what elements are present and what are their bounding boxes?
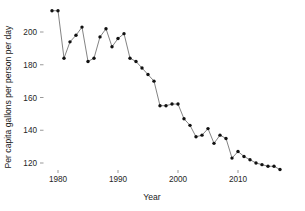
data-point <box>98 35 101 38</box>
data-point <box>170 102 173 105</box>
data-point <box>134 60 137 63</box>
data-point <box>158 104 161 107</box>
data-point <box>206 127 209 130</box>
data-point <box>146 73 149 76</box>
data-point <box>74 34 77 37</box>
series-line-per-capita-water-use <box>52 11 280 170</box>
data-point <box>128 57 131 60</box>
y-tick-label: 160 <box>23 94 37 103</box>
series-markers <box>50 9 281 171</box>
line-chart: 120140160180200 1980199020002010 Year Pe… <box>0 0 305 211</box>
data-point <box>110 45 113 48</box>
y-tick-label: 180 <box>23 61 37 70</box>
x-axis-ticks: 1980199020002010 <box>49 170 248 184</box>
data-point <box>86 60 89 63</box>
y-tick-label: 140 <box>23 126 37 135</box>
data-point <box>152 79 155 82</box>
data-point <box>56 9 59 12</box>
x-tick-label: 1990 <box>109 175 128 184</box>
data-point <box>164 104 167 107</box>
data-point <box>50 9 53 12</box>
data-point <box>188 124 191 127</box>
chart-container: 120140160180200 1980199020002010 Year Pe… <box>0 0 305 211</box>
data-point <box>92 57 95 60</box>
y-tick-label: 120 <box>23 159 37 168</box>
data-point <box>140 66 143 69</box>
data-point <box>194 135 197 138</box>
data-point <box>248 158 251 161</box>
data-point <box>104 27 107 30</box>
data-point <box>242 155 245 158</box>
data-point <box>116 37 119 40</box>
x-tick-label: 2000 <box>169 175 188 184</box>
data-point <box>80 25 83 28</box>
data-point <box>254 161 257 164</box>
data-point <box>272 165 275 168</box>
data-point <box>236 150 239 153</box>
y-axis-ticks: 120140160180200 <box>23 28 43 168</box>
y-tick-label: 200 <box>23 28 37 37</box>
data-point <box>278 168 281 171</box>
data-point <box>218 133 221 136</box>
data-point <box>62 57 65 60</box>
data-point <box>176 102 179 105</box>
data-point <box>68 40 71 43</box>
data-point <box>212 142 215 145</box>
x-tick-label: 1980 <box>49 175 68 184</box>
data-point <box>200 133 203 136</box>
data-point <box>260 163 263 166</box>
data-point <box>266 165 269 168</box>
x-axis-title: Year <box>143 192 161 202</box>
data-point <box>230 156 233 159</box>
x-tick-label: 2010 <box>229 175 248 184</box>
data-point <box>182 117 185 120</box>
data-point <box>122 32 125 35</box>
y-axis-title: Per capita gallons per person per day <box>3 25 13 169</box>
data-point <box>224 137 227 140</box>
